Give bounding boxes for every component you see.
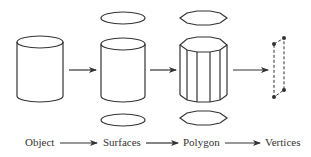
object-decomposition-diagram: Object Surfaces Polygon Vertices — [0, 0, 311, 157]
label-surfaces: Surfaces — [103, 136, 141, 148]
object-cylinder — [17, 36, 63, 102]
surfaces-cylinder — [101, 12, 145, 126]
label-polygon: Polygon — [183, 136, 220, 148]
vertices-quad — [272, 36, 286, 99]
label-vertices: Vertices — [265, 136, 300, 148]
label-object: Object — [25, 136, 54, 148]
polygon-prism — [180, 11, 227, 125]
